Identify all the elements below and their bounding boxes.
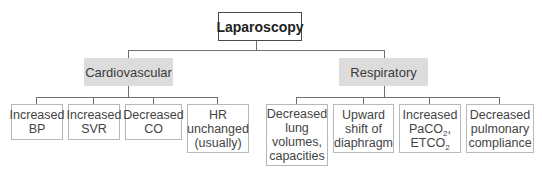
effect-line: (usually) xyxy=(194,136,241,150)
effect-decreased-lung-volumes: Decreased lung volumes, capacities xyxy=(266,104,328,166)
effect-line: lung xyxy=(285,121,309,135)
effect-line: HR xyxy=(209,108,227,122)
effect-line: compliance xyxy=(468,136,531,150)
effect-decreased-co: Decreased CO xyxy=(125,104,182,140)
cardio-stem-bottom xyxy=(128,86,129,97)
category-cardiovascular: Cardiovascular xyxy=(84,58,173,86)
subscript: 2 xyxy=(445,143,449,152)
resp-leaf4-stem xyxy=(499,97,500,104)
effect-increased-bp: Increased BP xyxy=(11,104,63,140)
cardio-stem-top xyxy=(128,50,129,58)
cardio-branch xyxy=(36,97,218,98)
resp-leaf1-stem xyxy=(296,97,297,104)
effect-line: Decreased xyxy=(267,107,327,121)
paco-text: PaCO xyxy=(409,122,443,136)
category-label: Respiratory xyxy=(350,65,416,80)
resp-leaf2-stem xyxy=(363,97,364,104)
effect-line: SVR xyxy=(81,122,107,136)
effect-line: Upward xyxy=(342,108,385,122)
effect-decreased-compliance: Decreased pulmonary compliance xyxy=(466,104,534,153)
category-respiratory: Respiratory xyxy=(339,58,428,86)
resp-leaf3-stem xyxy=(429,97,430,104)
effect-line: BP xyxy=(29,122,46,136)
cardio-leaf3-stem xyxy=(153,97,154,104)
category-label: Cardiovascular xyxy=(85,65,172,80)
resp-branch xyxy=(296,97,500,98)
resp-stem-bottom xyxy=(384,86,385,97)
effect-line: diaphragm xyxy=(334,136,393,150)
effect-increased-svr: Increased SVR xyxy=(68,104,120,140)
effect-line: pulmonary xyxy=(471,122,529,136)
effect-hr-unchanged: HR unchanged (usually) xyxy=(187,104,249,153)
effect-line: capacities xyxy=(269,149,325,163)
effect-increased-paco2: Increased PaCO2, ETCO2 xyxy=(399,104,461,153)
comma: , xyxy=(448,122,451,136)
resp-stem-top xyxy=(384,50,385,58)
effect-line: Increased xyxy=(10,108,65,122)
effect-line: Increased xyxy=(403,108,458,122)
root-label: Laparoscopy xyxy=(216,19,303,35)
effect-line: shift of xyxy=(345,122,382,136)
root-node: Laparoscopy xyxy=(218,12,302,41)
cardio-leaf2-stem xyxy=(93,97,94,104)
effect-line: ETCO2 xyxy=(410,136,449,150)
effect-line: Decreased xyxy=(470,108,530,122)
effect-line: unchanged xyxy=(187,122,249,136)
effect-line: volumes, xyxy=(272,135,322,149)
cardio-leaf4-stem xyxy=(217,97,218,104)
effect-line: Decreased xyxy=(123,108,183,122)
cardio-leaf1-stem xyxy=(36,97,37,104)
effect-upward-diaphragm: Upward shift of diaphragm xyxy=(333,104,394,153)
root-branch xyxy=(128,50,385,51)
effect-line: Increased xyxy=(67,108,122,122)
effect-line: PaCO2, xyxy=(409,122,451,136)
effect-line: CO xyxy=(144,122,163,136)
etco-text: ETCO xyxy=(410,136,445,150)
root-stem xyxy=(256,40,257,50)
